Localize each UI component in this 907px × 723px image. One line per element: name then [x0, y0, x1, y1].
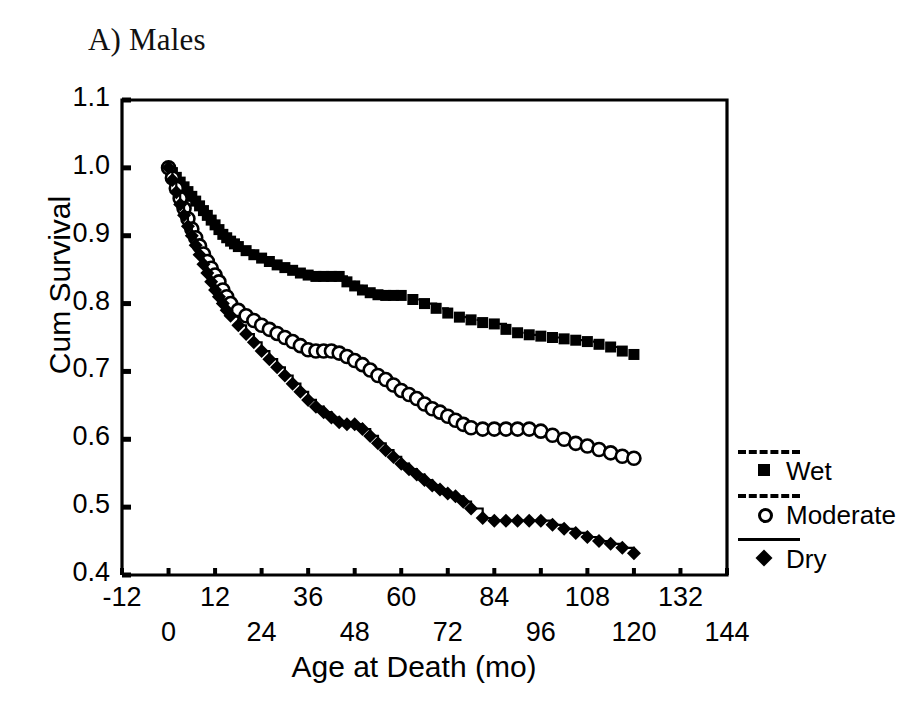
data-series-layer	[162, 161, 641, 560]
legend-line-dry	[738, 538, 800, 541]
legend-item-wet[interactable]: Wet	[738, 446, 903, 490]
y-tick-label: 1.1	[48, 82, 110, 113]
y-tick-label: 0.7	[48, 353, 110, 384]
axis-frame	[122, 100, 727, 575]
y-tick-label: 0.5	[48, 489, 110, 520]
page-title: A) Males	[88, 22, 206, 58]
x-tick-label: 36	[273, 582, 343, 613]
legend-item-dry[interactable]: Dry	[738, 534, 903, 578]
legend-marker-open-circle-icon	[758, 508, 773, 523]
x-tick-label: 132	[645, 582, 715, 613]
x-tick-label: 108	[552, 582, 622, 613]
y-tick-label: 0.8	[48, 286, 110, 317]
x-tick-label: 12	[180, 582, 250, 613]
legend-line-wet	[738, 450, 800, 454]
x-tick-label: 48	[320, 617, 390, 648]
survival-chart-figure: A) Males Cum Survival Age at Death (mo) …	[0, 0, 907, 723]
x-tick-label: 120	[599, 617, 669, 648]
x-axis-title: Age at Death (mo)	[214, 650, 614, 684]
x-tick-label: 96	[506, 617, 576, 648]
y-tick-label: 0.6	[48, 421, 110, 452]
legend-marker-filled-square-icon	[758, 464, 770, 476]
x-tick-label: 144	[692, 617, 762, 648]
legend-marker-filled-diamond-icon	[756, 550, 773, 567]
legend-label: Dry	[786, 544, 826, 575]
series-dry	[162, 161, 641, 560]
x-tick-label: -12	[87, 582, 157, 613]
x-tick-label: 60	[366, 582, 436, 613]
series-wet	[163, 162, 639, 360]
plot-area	[0, 0, 907, 723]
x-tick-label: 24	[227, 617, 297, 648]
legend-label: Moderate	[786, 500, 896, 531]
x-tick-label: 72	[413, 617, 483, 648]
y-tick-label: 0.9	[48, 218, 110, 249]
x-tick-label: 84	[459, 582, 529, 613]
legend-label: Wet	[786, 456, 832, 487]
legend-item-moderate[interactable]: Moderate	[738, 490, 903, 534]
legend-line-moderate	[738, 494, 800, 498]
chart-legend: WetModerateDry	[738, 446, 903, 578]
x-tick-label: 0	[134, 617, 204, 648]
y-tick-label: 1.0	[48, 150, 110, 181]
